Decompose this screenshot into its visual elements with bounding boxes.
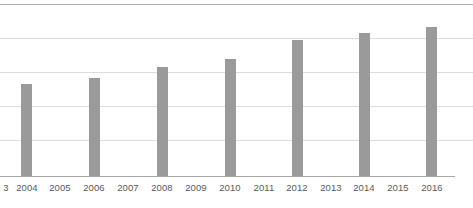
bar-2006[interactable] [89,78,100,176]
x-axis-tick-labels: 3200420052006200720082009201020112012201… [0,177,473,208]
bar-2010[interactable] [225,59,236,176]
bar-2008[interactable] [157,67,168,176]
plot-area [0,0,473,177]
bar-2016[interactable] [426,27,437,176]
bar-2014[interactable] [359,33,370,176]
gridline [0,72,473,73]
tick-label: 2016 [412,182,452,193]
gridline [0,38,473,39]
gridline [0,140,473,141]
bar-chart: 3200420052006200720082009201020112012201… [0,0,473,208]
bar-2012[interactable] [292,40,303,176]
gridline [0,4,473,5]
gridline [0,106,473,107]
bar-2004[interactable] [21,84,32,176]
